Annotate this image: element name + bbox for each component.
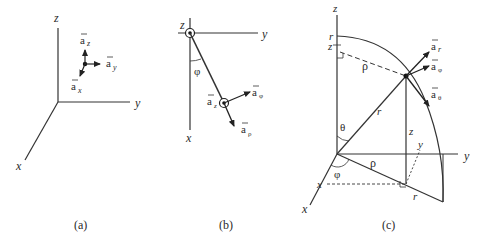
- svg-text:a: a: [241, 123, 246, 135]
- svg-text:y: y: [112, 63, 117, 72]
- atheta-arrow: [406, 76, 429, 106]
- rho-ground-label: ρ: [370, 156, 376, 170]
- aphi-arrow: [224, 92, 250, 103]
- theta-label: θ: [340, 121, 345, 133]
- theta-arc: [337, 136, 349, 141]
- z-axis-label: z: [53, 11, 59, 25]
- svg-text:θ: θ: [438, 94, 442, 102]
- svg-text:z: z: [213, 102, 217, 110]
- z-mid-label: z: [408, 125, 414, 137]
- aphi-label: a φ: [431, 60, 442, 74]
- phi-label: φ: [194, 65, 200, 77]
- z-top-label: z: [327, 40, 333, 52]
- r-mid-label: r: [377, 105, 382, 117]
- svg-text:ρ: ρ: [248, 130, 252, 138]
- y-axis-label: y: [134, 96, 141, 110]
- svg-text:a: a: [207, 95, 212, 107]
- az-label: a z: [80, 34, 91, 48]
- y-proj-label: y: [417, 138, 423, 150]
- svg-text:a: a: [431, 60, 436, 72]
- x-proj-label: x: [316, 178, 322, 190]
- r-ground-label: r: [413, 190, 418, 202]
- panel-c: z y x r z ρ r z θ ρ φ x y r: [301, 2, 470, 216]
- svg-text:φ: φ: [259, 92, 263, 100]
- y-axis-label: y: [463, 149, 470, 163]
- svg-text:r: r: [438, 45, 442, 54]
- arho-label: a ρ: [241, 123, 252, 138]
- caption-a: (a): [74, 218, 87, 232]
- x-axis-label: x: [185, 131, 192, 145]
- svg-text:a: a: [431, 40, 436, 52]
- y-axis-label: y: [261, 27, 268, 41]
- rho-dashed-top: [340, 52, 406, 76]
- svg-text:a: a: [80, 34, 85, 46]
- aphi-label: a φ: [252, 86, 263, 100]
- ar-label: a r: [431, 40, 442, 54]
- phi-label: φ: [334, 168, 340, 180]
- phi-arc: [190, 59, 201, 61]
- svg-text:x: x: [77, 86, 82, 95]
- x-axis: [25, 102, 58, 160]
- rho-top-label: ρ: [362, 59, 368, 73]
- svg-text:φ: φ: [438, 66, 442, 74]
- svg-text:a: a: [106, 57, 111, 69]
- ay-label: a y: [106, 57, 117, 72]
- caption-c: (c): [382, 218, 395, 232]
- coordinate-systems-figure: z y x a z a y a x z y x: [0, 0, 491, 243]
- panel-a: z y x a z a y a x: [15, 11, 141, 173]
- atheta-label: a θ: [431, 88, 442, 102]
- x-axis: [310, 154, 337, 205]
- ax-arrow: [80, 64, 85, 76]
- z-axis-label: z: [332, 2, 338, 14]
- x-axis-label: x: [15, 159, 22, 173]
- ax-label: a x: [71, 80, 82, 95]
- caption-b: (b): [219, 218, 233, 232]
- y-projection-dotted: [406, 150, 420, 184]
- x-axis-label: x: [301, 202, 308, 216]
- svg-text:a: a: [431, 88, 436, 100]
- arho-arrow: [224, 103, 234, 126]
- svg-text:z: z: [86, 39, 91, 48]
- r-line: [337, 76, 406, 154]
- right-angle-top: [337, 53, 343, 58]
- panel-b: z y x φ a φ a z a ρ: [178, 18, 268, 145]
- ar-arrow: [406, 52, 429, 76]
- az-label: a z: [207, 95, 217, 110]
- rho-ground-line: [337, 154, 443, 202]
- sphere-arc: [337, 36, 443, 202]
- svg-text:a: a: [252, 86, 257, 98]
- svg-text:a: a: [71, 80, 76, 92]
- z-axis-label: z: [179, 18, 185, 32]
